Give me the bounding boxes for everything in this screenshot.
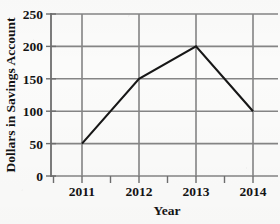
x-axis-ticks — [54, 176, 254, 183]
x-tick-labels: 2011 2012 2013 2014 — [69, 184, 267, 199]
data-line-series — [82, 46, 253, 143]
y-axis-title: Dollars in Savings Account — [3, 17, 18, 172]
horizontal-gridlines — [51, 14, 278, 176]
y-tick-label-250: 250 — [23, 7, 44, 22]
chart-svg: 250 200 150 100 50 0 2011 2012 2013 2014… — [0, 0, 280, 224]
y-tick-label-150: 150 — [23, 72, 44, 87]
y-tick-label-100: 100 — [23, 104, 44, 119]
x-axis-title: Year — [154, 203, 181, 218]
line-chart-figure: 250 200 150 100 50 0 2011 2012 2013 2014… — [0, 0, 280, 224]
vertical-gridlines — [82, 14, 253, 176]
y-tick-label-50: 50 — [30, 137, 44, 152]
y-tick-label-0: 0 — [36, 169, 43, 184]
x-tick-label-2011: 2011 — [69, 184, 96, 199]
x-tick-label-2014: 2014 — [240, 184, 267, 199]
y-tick-label-200: 200 — [23, 39, 44, 54]
y-tick-labels: 250 200 150 100 50 0 — [23, 7, 44, 184]
x-tick-label-2013: 2013 — [183, 184, 210, 199]
x-tick-label-2012: 2012 — [126, 184, 153, 199]
